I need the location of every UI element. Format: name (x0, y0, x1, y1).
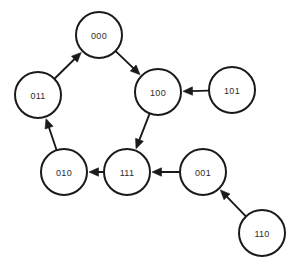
edge-line (116, 51, 135, 69)
node-label: 100 (150, 88, 166, 98)
edge-line (48, 126, 56, 150)
arrowhead-icon (183, 87, 193, 95)
node-100[interactable]: 100 (135, 69, 181, 115)
edge-000-to-100 (116, 51, 140, 74)
diagram-canvas: 000011100101010111001110 (0, 0, 299, 267)
arrowhead-icon (152, 168, 162, 176)
edge-line (226, 195, 246, 216)
node-label: 011 (30, 91, 45, 101)
node-label: 111 (120, 168, 135, 178)
edge-line (139, 114, 150, 142)
edge-010-to-011 (45, 119, 56, 150)
node-010[interactable]: 010 (41, 149, 87, 195)
arrowhead-icon (45, 119, 53, 129)
node-000[interactable]: 000 (76, 12, 122, 58)
node-label: 001 (195, 168, 211, 178)
arrowhead-icon (89, 168, 99, 176)
edge-101-to-100 (183, 87, 209, 95)
state-transition-graph: 000011100101010111001110 (0, 0, 299, 267)
edge-110-to-001 (220, 190, 245, 216)
edge-line (55, 58, 76, 79)
node-001[interactable]: 001 (180, 149, 226, 195)
node-label: 010 (56, 168, 72, 178)
nodes-layer: 000011100101010111001110 (15, 12, 285, 256)
node-110[interactable]: 110 (239, 210, 285, 256)
edge-001-to-111 (152, 168, 180, 176)
edge-011-to-000 (55, 53, 81, 79)
node-011[interactable]: 011 (15, 72, 61, 118)
node-label: 000 (91, 31, 107, 41)
node-label: 101 (224, 86, 240, 96)
edge-100-to-111 (136, 114, 150, 149)
edge-111-to-010 (89, 168, 104, 176)
node-101[interactable]: 101 (209, 67, 255, 113)
arrowhead-icon (136, 138, 144, 148)
node-label: 110 (254, 229, 269, 239)
node-111[interactable]: 111 (104, 149, 150, 195)
